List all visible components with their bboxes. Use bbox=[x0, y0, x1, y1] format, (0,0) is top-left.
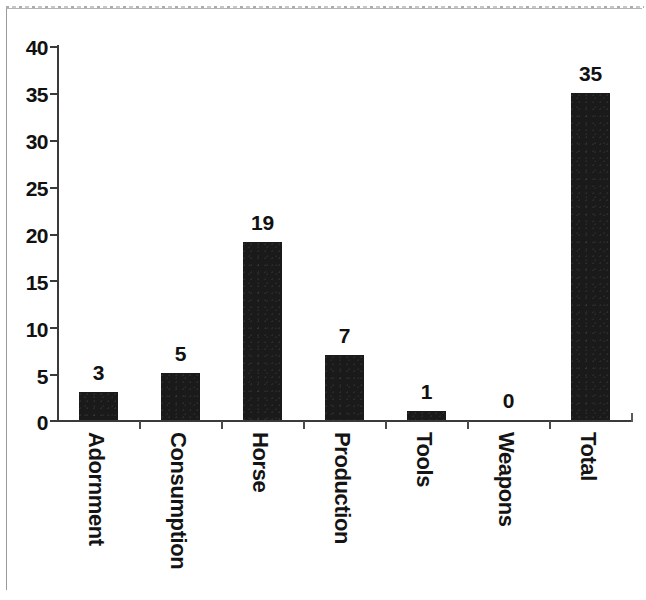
y-axis-tick-label: 30 bbox=[4, 131, 48, 152]
bar-total bbox=[571, 93, 610, 420]
bar-value-label: 35 bbox=[551, 63, 630, 84]
bar-value-label: 3 bbox=[59, 362, 138, 383]
x-axis-tick-mark bbox=[385, 421, 387, 429]
y-axis-tick-label: 40 bbox=[4, 37, 48, 58]
x-axis-category-label: Adornment bbox=[83, 432, 109, 546]
bar-horse bbox=[243, 242, 282, 420]
bar-value-label: 0 bbox=[469, 390, 548, 411]
bar-production bbox=[325, 355, 364, 420]
x-axis-line bbox=[57, 420, 633, 422]
y-axis-tick-label: 10 bbox=[4, 319, 48, 340]
x-axis-category-label: Horse bbox=[247, 432, 273, 492]
bar-consumption bbox=[161, 373, 200, 420]
x-axis-tick-mark bbox=[303, 421, 305, 429]
x-axis-category-label: Tools bbox=[411, 432, 437, 487]
bar-value-label: 1 bbox=[387, 381, 466, 402]
x-axis-tick-mark bbox=[139, 421, 141, 429]
x-axis-end-tick bbox=[631, 413, 633, 422]
y-axis-tick-label: 20 bbox=[4, 225, 48, 246]
x-axis-category-label: Weapons bbox=[493, 432, 519, 527]
x-axis-tick-mark bbox=[549, 421, 551, 429]
bar-value-label: 5 bbox=[141, 343, 220, 364]
bar-value-label: 19 bbox=[223, 212, 302, 233]
y-axis-tick-label: 15 bbox=[4, 272, 48, 293]
y-axis-tick-label: 25 bbox=[4, 178, 48, 199]
scan-artifact-top-rule bbox=[6, 6, 644, 8]
y-axis-tick-label: 5 bbox=[4, 366, 48, 387]
x-axis-tick-mark bbox=[221, 421, 223, 429]
y-axis-label-group: 40 35 30 25 20 15 10 5 0 bbox=[0, 0, 48, 600]
bar-tools bbox=[407, 411, 446, 420]
x-axis-category-label: Consumption bbox=[165, 432, 191, 569]
bar-adornment bbox=[79, 392, 118, 420]
y-axis-tick-label: 0 bbox=[4, 412, 48, 433]
x-axis-tick-mark bbox=[467, 421, 469, 429]
bar-chart-screenshot: 40 35 30 25 20 15 10 5 0 3 5 19 7 1 0 35… bbox=[0, 0, 646, 600]
bar-value-label: 7 bbox=[305, 325, 384, 346]
x-axis-category-label: Total bbox=[575, 432, 601, 481]
y-axis-tick-label: 35 bbox=[4, 84, 48, 105]
x-axis-category-label: Production bbox=[329, 432, 355, 544]
